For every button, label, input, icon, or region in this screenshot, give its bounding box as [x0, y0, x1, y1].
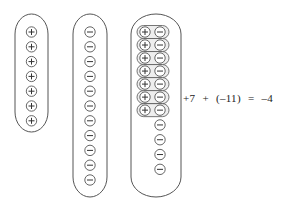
positive-counter-icon	[140, 27, 150, 37]
negative-counter-icon	[155, 27, 165, 37]
equation-term-b: (–11)	[216, 92, 241, 104]
positive-counter-icon	[26, 42, 36, 52]
negative-counter-icon	[85, 101, 95, 111]
equation-result: –4	[262, 92, 274, 104]
positive-counter-icon	[26, 101, 36, 111]
negative-counter-icon	[155, 92, 165, 102]
equation-plus: +	[202, 92, 209, 104]
negative-counter-icon	[155, 105, 165, 115]
negative-counter-icon	[155, 120, 165, 130]
positive-counter-icon	[140, 105, 150, 115]
negative-counter-icon	[85, 42, 95, 52]
positive-counter-icon	[140, 92, 150, 102]
positive-counter-icon	[140, 40, 150, 50]
equation-term-a: +7	[183, 92, 195, 104]
negative-counter-icon	[155, 40, 165, 50]
negative-counter-icon	[85, 160, 95, 170]
positive-counter-icon	[26, 27, 36, 37]
negative-counter-icon	[85, 71, 95, 81]
positive-counter-icon	[140, 79, 150, 89]
positive-counter-icon	[26, 116, 36, 126]
equation-equals: =	[248, 92, 255, 104]
combined-group	[131, 14, 181, 197]
negative-counter-icon	[85, 116, 95, 126]
negative-counter-icon	[155, 135, 165, 145]
negative-counter-icon	[155, 149, 165, 159]
positive-counter-icon	[140, 53, 150, 63]
positive-counter-icon	[26, 71, 36, 81]
negative-counter-icon	[155, 66, 165, 76]
positive-group	[15, 14, 48, 132]
counter-diagram	[0, 0, 287, 209]
negative-group	[73, 14, 107, 197]
negative-counter-icon	[85, 56, 95, 66]
equation: +7 + (–11) = –4	[183, 92, 277, 104]
negative-counter-icon	[155, 53, 165, 63]
negative-counter-icon	[155, 164, 165, 174]
positive-counter-icon	[26, 86, 36, 96]
negative-counter-icon	[85, 130, 95, 140]
negative-counter-icon	[85, 86, 95, 96]
positive-counter-icon	[26, 56, 36, 66]
negative-counter-icon	[85, 27, 95, 37]
negative-counter-icon	[155, 79, 165, 89]
negative-counter-icon	[85, 175, 95, 185]
negative-counter-icon	[85, 145, 95, 155]
positive-counter-icon	[140, 66, 150, 76]
